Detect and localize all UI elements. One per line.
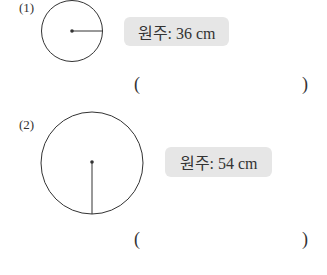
- problem-1-answer-close: ): [302, 74, 308, 95]
- circle-1: [42, 1, 103, 62]
- problem-1-answer-blank[interactable]: [145, 76, 300, 96]
- problem-2-circumference-label: 원주: 54 cm: [165, 147, 272, 177]
- problem-1-number: (1): [19, 0, 34, 16]
- problem-2-answer-blank[interactable]: [145, 231, 300, 251]
- problem-2-answer-close: ): [302, 229, 308, 250]
- problem-2-number: (2): [19, 117, 34, 133]
- problem-2-answer-open: (: [134, 229, 140, 250]
- problem-1-circumference-label: 원주: 36 cm: [124, 17, 229, 46]
- problem-1-answer-open: (: [134, 74, 140, 95]
- circle-2: [41, 112, 143, 214]
